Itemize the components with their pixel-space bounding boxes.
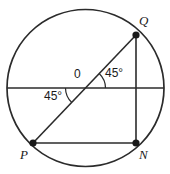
angle-label-left: 45° — [44, 90, 62, 102]
vertex-label-p: P — [20, 148, 28, 161]
vertex-label-n: N — [139, 148, 148, 161]
angle-arc-left — [66, 88, 72, 102]
vertex-dot-n — [132, 139, 139, 146]
vertex-label-q: Q — [139, 14, 148, 27]
geometry-figure: Q P N 0 45° 45° — [0, 0, 170, 174]
vertex-dot-p — [29, 139, 36, 146]
center-label-o: 0 — [74, 68, 81, 80]
vertex-dot-q — [132, 31, 139, 38]
angle-label-right: 45° — [105, 67, 123, 79]
